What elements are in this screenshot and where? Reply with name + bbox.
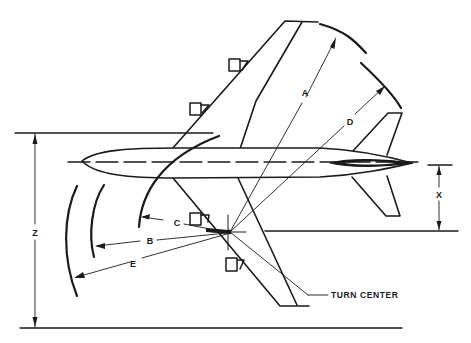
label-z: Z (32, 228, 38, 238)
arc-nose-E (66, 186, 77, 296)
lower-stabilizer (352, 176, 400, 216)
label-c: C (174, 218, 181, 228)
lower-engine-outer (226, 258, 244, 271)
label-a: A (302, 88, 309, 98)
label-e: E (130, 259, 136, 269)
upper-wing (172, 21, 318, 149)
upper-engine-outer (229, 59, 248, 71)
arc-wingtip-A (320, 24, 366, 53)
lower-engine-inner (190, 213, 209, 225)
upper-stabilizer (352, 113, 402, 155)
arc-stabilizer-D (361, 63, 401, 108)
label-x: X (436, 190, 442, 200)
turn-center-mark (206, 215, 246, 250)
upper-engine-inner (190, 103, 209, 115)
lower-wing (173, 178, 309, 306)
label-b: B (147, 236, 154, 246)
turning-radius-diagram: A D C B E Z X TURN CENTER (0, 0, 471, 343)
turn-center-label: TURN CENTER (331, 290, 399, 300)
label-d: D (347, 117, 354, 127)
